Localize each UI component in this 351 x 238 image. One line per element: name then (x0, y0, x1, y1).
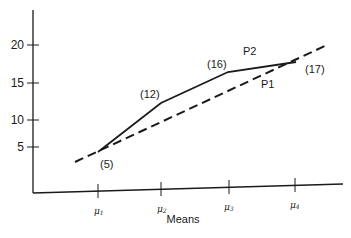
x-tick-label: μ1 (94, 206, 104, 216)
x-tick-label: μ4 (290, 200, 300, 210)
chart-canvas: 20 15 10 5 μ1 μ2 μ3 μ4 Means (5) (12) (1… (0, 0, 351, 238)
x-axis (33, 184, 343, 193)
point-label: (17) (305, 63, 325, 75)
point-label: (12) (140, 88, 160, 100)
x-tick-label: μ3 (224, 202, 234, 212)
series-label-p1: P1 (261, 78, 274, 90)
point-label: (5) (100, 158, 113, 170)
y-tick-label: 20 (11, 38, 25, 52)
point-label: (16) (207, 58, 227, 70)
y-ticks: 20 15 10 5 (11, 38, 39, 154)
y-tick-label: 15 (11, 76, 25, 90)
y-tick-label: 10 (11, 113, 25, 127)
series-label-p2: P2 (243, 45, 256, 57)
y-tick-label: 5 (17, 140, 24, 154)
x-axis-title: Means (166, 213, 200, 225)
x-tick-label: μ2 (157, 204, 167, 214)
x-ticks: μ1 μ2 μ3 μ4 Means (94, 178, 300, 225)
